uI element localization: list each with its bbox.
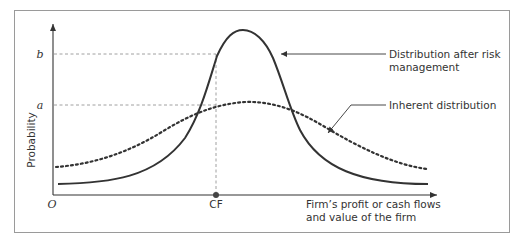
x-axis-label-line2: and value of the firm: [306, 211, 416, 223]
risk-managed-distribution-curve: [58, 30, 428, 184]
x-axis-label-line1: Firm’s profit or cash flows: [306, 198, 441, 210]
origin-label: O: [47, 198, 56, 211]
risk-managed-label-line1: Distribution after risk: [389, 48, 501, 60]
x-tick-cf: CF: [209, 198, 222, 210]
risk-distribution-diagram: b a O CF Probability Firm’s profit or ca…: [0, 0, 521, 244]
y-axis-label: Probability: [25, 112, 37, 168]
y-tick-b: b: [36, 48, 43, 61]
y-tick-a: a: [37, 99, 44, 112]
inherent-distribution-curve: [56, 102, 427, 169]
inherent-pointer: [328, 105, 386, 133]
inherent-label: Inherent distribution: [389, 99, 496, 111]
risk-managed-label-line2: management: [389, 61, 459, 73]
